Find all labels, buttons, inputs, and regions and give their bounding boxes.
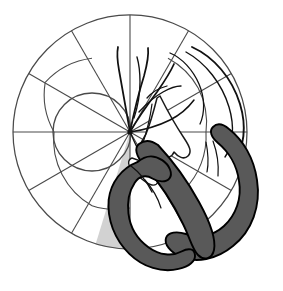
center-point-marker [127, 129, 132, 134]
polar-diagram-svg: Polar fundus grid with vessel tracing an… [0, 0, 283, 291]
figure-root: Polar fundus grid with vessel tracing an… [0, 0, 283, 291]
